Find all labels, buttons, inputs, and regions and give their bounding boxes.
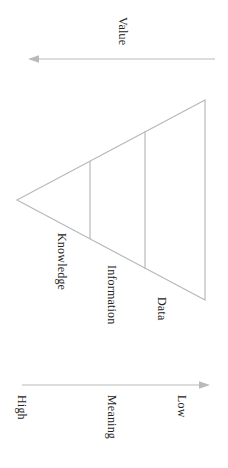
meaning-axis-label: Meaning <box>106 395 118 439</box>
meaning-axis-arrowhead <box>199 381 210 389</box>
value-axis-arrowhead <box>28 55 39 63</box>
pyramid-tier-label-knowledge: Knowledge <box>56 233 68 290</box>
value-axis-arrow <box>28 55 215 63</box>
diagram-root: Value Knowledge Information Data High Me… <box>0 0 228 468</box>
meaning-axis-tick-label-low: Low <box>176 395 188 418</box>
pyramid-tier-label-data: Data <box>156 297 168 320</box>
meaning-axis-tick-label-high: High <box>16 395 28 420</box>
meaning-axis-arrow <box>22 381 210 389</box>
pyramid-tier-label-information: Information <box>106 265 118 325</box>
value-axis-label: Value <box>117 17 129 45</box>
